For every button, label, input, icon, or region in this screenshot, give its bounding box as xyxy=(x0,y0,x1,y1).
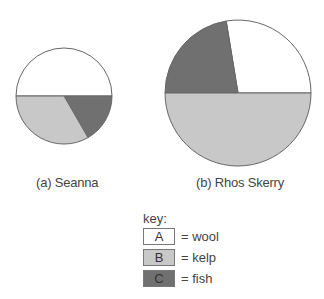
slice-fish xyxy=(165,21,238,93)
key-label-kelp: = kelp xyxy=(181,250,216,265)
key-label-wool: = wool xyxy=(181,229,219,244)
key-swatch-wool: A xyxy=(143,228,175,245)
key-item-kelp: B = kelp xyxy=(143,248,216,267)
slice-kelp xyxy=(165,93,311,166)
key-swatch-fish: C xyxy=(143,270,175,287)
key-swatch-kelp: B xyxy=(143,249,175,266)
slice-wool xyxy=(226,20,311,93)
key-item-wool: A = wool xyxy=(143,227,219,246)
pie-seanna xyxy=(16,48,112,144)
caption-rhos-skerry: (b) Rhos Skerry xyxy=(196,175,284,190)
caption-seanna: (a) Seanna xyxy=(36,175,98,190)
key-item-fish: C = fish xyxy=(143,269,212,288)
slice-wool xyxy=(16,48,112,96)
key-label-fish: = fish xyxy=(181,271,212,286)
pie-rhos-skerry xyxy=(165,20,311,166)
key-title: key: xyxy=(143,211,167,226)
